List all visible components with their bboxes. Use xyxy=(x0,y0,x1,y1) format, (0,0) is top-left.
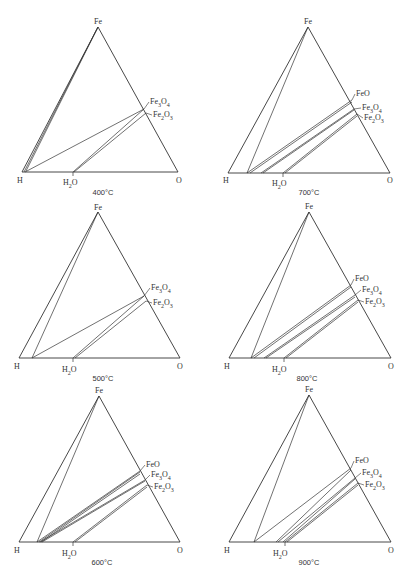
tie-line xyxy=(250,102,352,173)
ternary-panel-700: FeOFe3O4Fe2O3FeHOH2O700°C xyxy=(223,17,393,197)
temperature-label: 800°C xyxy=(297,374,319,383)
phase-label-feo: FeO xyxy=(355,274,369,283)
h2o-label: H2O xyxy=(62,365,77,376)
h2o-label: H2O xyxy=(273,549,288,560)
temperature-label: 900°C xyxy=(299,558,321,567)
vertex-label-fe: Fe xyxy=(305,385,313,394)
tie-line xyxy=(263,110,354,173)
vertex-label-o: O xyxy=(388,362,394,371)
phase-leader xyxy=(355,290,361,295)
vertex-label-h: H xyxy=(14,362,20,371)
vertex-label-o: O xyxy=(177,362,183,371)
phase-leader xyxy=(144,288,150,296)
phase-label-fe2o3: Fe2O3 xyxy=(365,297,385,308)
vertex-label-h: H xyxy=(223,176,229,185)
h2o-label: H2O xyxy=(272,179,287,190)
triangle-outline xyxy=(228,27,390,173)
temperature-label: 600°C xyxy=(92,558,114,567)
phase-label-fe3o4: Fe3O4 xyxy=(151,470,171,481)
tie-line xyxy=(251,212,309,358)
phase-leader xyxy=(147,485,153,487)
tie-line xyxy=(287,485,358,542)
tie-line xyxy=(283,479,355,542)
temperature-label: 700°C xyxy=(299,188,321,197)
tie-line xyxy=(247,27,308,173)
tie-line xyxy=(278,478,355,542)
vertex-label-o: O xyxy=(388,546,394,555)
phase-label-fe2o3: Fe2O3 xyxy=(365,480,385,491)
tie-line xyxy=(266,297,355,358)
vertex-label-o: O xyxy=(387,176,393,185)
tie-line xyxy=(42,481,145,542)
phase-leader xyxy=(144,102,149,109)
tie-line xyxy=(75,301,146,358)
temperature-label: 400°C xyxy=(93,188,115,197)
vertex-label-o: O xyxy=(176,176,182,185)
tie-line xyxy=(39,472,140,542)
phase-leader xyxy=(145,475,150,480)
tie-line xyxy=(32,212,98,358)
vertex-label-fe: Fe xyxy=(95,386,103,395)
h2o-label: H2O xyxy=(63,178,78,189)
tie-line xyxy=(41,474,140,542)
ternary-panel-600: FeOFe3O4Fe2O3FeHOH2O600°C xyxy=(14,386,183,567)
tie-line xyxy=(26,27,98,171)
vertex-label-fe: Fe xyxy=(94,203,102,212)
tie-line xyxy=(254,287,351,358)
phase-leader xyxy=(354,108,361,109)
phase-label-fe3o4: Fe3O4 xyxy=(150,97,170,108)
tie-line xyxy=(254,395,309,542)
tie-line xyxy=(73,485,147,542)
tie-line xyxy=(261,109,354,173)
ternary-panel-400: Fe3O4Fe2O3FeHOH2O400°C xyxy=(17,17,182,197)
phase-leader xyxy=(351,279,354,285)
phase-label-feo: FeO xyxy=(355,456,369,465)
tie-line xyxy=(286,302,358,358)
ternary-diagram-figure: Fe3O4Fe2O3FeHOH2O400°CFeOFe3O4Fe2O3FeHOH… xyxy=(0,0,413,579)
vertex-label-h: H xyxy=(224,546,230,555)
vertex-label-o: O xyxy=(177,546,183,555)
vertex-label-fe: Fe xyxy=(94,17,102,26)
tie-line xyxy=(276,470,351,542)
tie-line xyxy=(74,113,146,172)
phase-label-fe2o3: Fe2O3 xyxy=(153,110,173,121)
h2o-label: H2O xyxy=(272,365,287,376)
vertex-label-fe: Fe xyxy=(305,202,313,211)
tie-line xyxy=(285,483,358,542)
tie-line xyxy=(251,285,351,358)
tie-line xyxy=(264,295,355,358)
phase-label-fe3o4: Fe3O4 xyxy=(151,283,171,294)
phase-label-fe2o3: Fe2O3 xyxy=(364,113,384,124)
tie-line xyxy=(285,116,357,173)
tie-line xyxy=(283,114,357,173)
phase-leader xyxy=(351,461,354,468)
tie-line xyxy=(73,296,144,358)
vertex-label-h: H xyxy=(224,362,230,371)
tie-line xyxy=(37,396,99,542)
ternary-panel-800: FeOFe3O4Fe2O3FeHOH2O800°C xyxy=(224,202,394,383)
h2o-label: H2O xyxy=(62,549,77,560)
phase-label-fe2o3: Fe2O3 xyxy=(153,298,173,309)
vertex-label-h: H xyxy=(14,546,20,555)
ternary-panel-900: FeOFe3O4Fe2O3FeHOH2O900°C xyxy=(224,385,394,567)
phase-label-feo: FeO xyxy=(356,89,370,98)
phase-leader xyxy=(355,473,361,478)
tie-line xyxy=(73,109,144,172)
phase-leader xyxy=(352,94,355,100)
tie-line xyxy=(75,487,147,542)
phase-leader xyxy=(140,465,145,471)
tie-line xyxy=(40,480,145,542)
vertex-label-h: H xyxy=(17,176,23,185)
phase-label-fe3o4: Fe3O4 xyxy=(362,285,382,296)
tie-line xyxy=(25,109,144,172)
phase-label-fe2o3: Fe2O3 xyxy=(154,482,174,493)
tie-line xyxy=(32,296,144,358)
temperature-label: 500°C xyxy=(93,374,115,383)
tie-line xyxy=(247,100,352,173)
phase-label-feo: FeO xyxy=(146,460,160,469)
vertex-label-fe: Fe xyxy=(304,17,312,26)
tie-line xyxy=(254,468,351,542)
triangle-outline xyxy=(19,396,180,542)
ternary-panel-500: Fe3O4Fe2O3FeHOH2O500°C xyxy=(14,203,183,383)
phase-label-fe3o4: Fe3O4 xyxy=(362,468,382,479)
